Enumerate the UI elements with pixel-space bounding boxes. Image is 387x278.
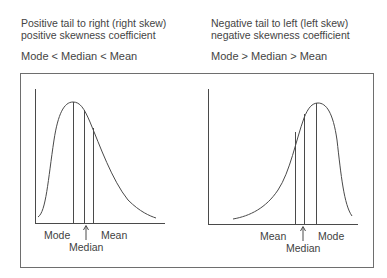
right-mean-label: Mean bbox=[260, 230, 286, 242]
left-skew-plot bbox=[208, 89, 358, 241]
right-skew-curve bbox=[38, 102, 156, 218]
left-mean-label: Mean bbox=[101, 229, 127, 241]
left-median-label: Median bbox=[69, 241, 103, 253]
left-skew-curve bbox=[233, 103, 352, 219]
right-median-label: Median bbox=[286, 242, 320, 254]
right-mode-label: Mode bbox=[318, 230, 344, 242]
right-skew-plot bbox=[35, 89, 165, 240]
left-mode-label: Mode bbox=[44, 229, 70, 241]
